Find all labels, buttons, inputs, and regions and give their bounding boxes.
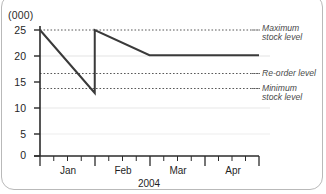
chart-plot-area: [0, 0, 326, 194]
axes: [34, 26, 259, 156]
reference-lines: [40, 30, 259, 89]
stock-level-data-line: [40, 30, 259, 93]
annotation-leaders: [252, 30, 260, 89]
stock-level-chart-figure: (000) 25 20 15 10 5 0 Jan Feb Mar Apr 20…: [0, 0, 326, 194]
x-axis-major-ticks: [40, 156, 259, 166]
gridlines: [34, 56, 270, 134]
y-axis-ticks: [34, 30, 40, 156]
